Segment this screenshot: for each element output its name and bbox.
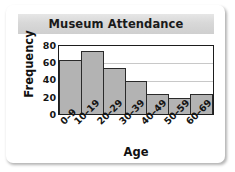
chart-title: Museum Attendance (49, 17, 184, 31)
x-axis-tick-labels: 0–9 10–19 20–29 30–39 40–49 50–59 60–69 (58, 116, 214, 146)
x-axis-title: Age (58, 145, 214, 159)
y-tick-label-0: 0 (34, 110, 56, 120)
y-tick-label-80: 80 (34, 41, 56, 51)
figure-card: Museum Attendance Frequency 80 60 40 20 … (6, 5, 225, 163)
y-axis-tick-labels: 80 60 40 20 0 (32, 45, 56, 115)
y-tick-label-40: 40 (34, 75, 56, 85)
y-tick-label-20: 20 (34, 93, 56, 103)
y-tick-label-60: 60 (34, 58, 56, 68)
chart-title-band: Museum Attendance (18, 14, 214, 34)
x-tick-slot-6: 60–69 (192, 116, 214, 146)
